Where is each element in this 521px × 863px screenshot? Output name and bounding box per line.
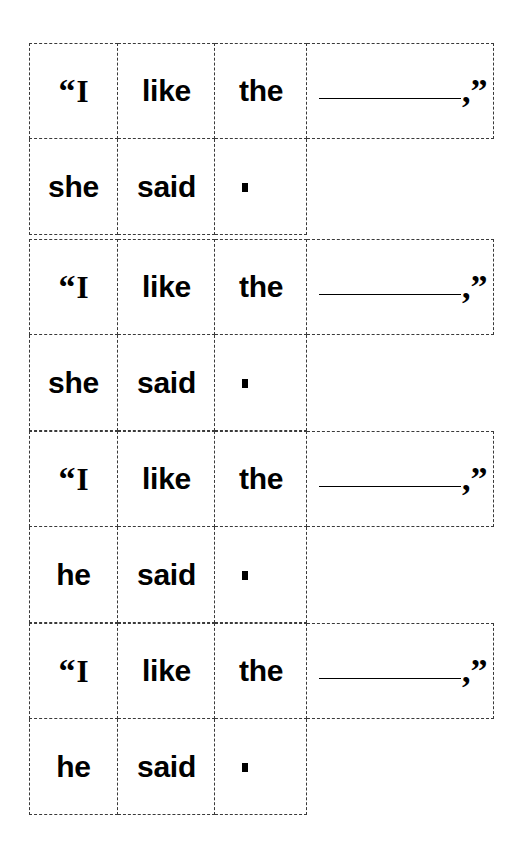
word-cell-said[interactable]: said bbox=[118, 139, 215, 235]
cell-border-right bbox=[306, 527, 307, 623]
word-cell-said[interactable]: said bbox=[118, 527, 215, 623]
cell-border-right bbox=[306, 719, 307, 815]
cell-border-left bbox=[29, 719, 30, 815]
cell-border-top bbox=[118, 623, 215, 624]
cell-border-right bbox=[306, 335, 307, 431]
cell-border-right bbox=[306, 139, 307, 235]
blank-answer-inner: ,” bbox=[319, 274, 494, 299]
word-text-like: like bbox=[142, 464, 191, 494]
cell-border-right bbox=[493, 623, 494, 719]
cell-border-top bbox=[307, 623, 494, 624]
word-text-said: said bbox=[137, 560, 196, 590]
blank-answer-cell[interactable]: ,” bbox=[307, 43, 494, 139]
cell-border-bottom bbox=[307, 526, 494, 527]
cell-border-left bbox=[29, 139, 30, 235]
cell-border-right bbox=[493, 431, 494, 527]
write-on-line[interactable] bbox=[319, 98, 461, 99]
word-text-the: the bbox=[239, 272, 283, 302]
comma-close-quote-text: ,” bbox=[462, 274, 488, 299]
word-cell-period[interactable] bbox=[215, 335, 307, 431]
period-mark-icon bbox=[242, 571, 248, 580]
capital-i-letter: I bbox=[76, 76, 88, 107]
cell-border-top bbox=[307, 239, 494, 240]
word-cell-like[interactable]: like bbox=[118, 431, 215, 527]
word-cell-the[interactable]: the bbox=[215, 623, 307, 719]
word-cell-like[interactable]: like bbox=[118, 43, 215, 139]
cell-border-bottom bbox=[307, 334, 494, 335]
blank-answer-inner: ,” bbox=[319, 466, 494, 491]
word-cell-the[interactable]: the bbox=[215, 239, 307, 335]
comma-close-quote-text: ,” bbox=[462, 78, 488, 103]
word-text-said: said bbox=[137, 172, 196, 202]
word-text-said: said bbox=[137, 368, 196, 398]
cell-border-top bbox=[307, 431, 494, 432]
word-cell-pronoun[interactable]: she bbox=[29, 335, 118, 431]
word-cell-said[interactable]: said bbox=[118, 335, 215, 431]
cell-border-left bbox=[29, 239, 30, 335]
word-cell-said[interactable]: said bbox=[118, 719, 215, 815]
comma-close-quote-text: ,” bbox=[462, 658, 488, 683]
cell-border-left bbox=[29, 43, 30, 139]
open-quote-icon: “ bbox=[58, 270, 75, 304]
word-cell-period[interactable] bbox=[215, 527, 307, 623]
write-on-line[interactable] bbox=[319, 486, 461, 487]
word-text-like: like bbox=[142, 656, 191, 686]
cell-border-bottom bbox=[307, 138, 494, 139]
word-cell-the[interactable]: the bbox=[215, 431, 307, 527]
open-quote-i-text: “I bbox=[58, 462, 88, 496]
word-text-said: said bbox=[137, 752, 196, 782]
blank-answer-cell[interactable]: ,” bbox=[307, 431, 494, 527]
cell-border-top bbox=[307, 43, 494, 44]
cell-border-left bbox=[29, 623, 30, 719]
word-cell-open-quote-i[interactable]: “I bbox=[29, 431, 118, 527]
cell-border-top bbox=[29, 43, 118, 44]
word-cell-pronoun[interactable]: she bbox=[29, 139, 118, 235]
cell-border-bottom bbox=[118, 234, 215, 235]
word-text-pronoun: he bbox=[56, 752, 90, 782]
cell-border-left bbox=[29, 527, 30, 623]
cell-border-top bbox=[215, 623, 307, 624]
word-cell-pronoun[interactable]: he bbox=[29, 527, 118, 623]
cell-border-top bbox=[29, 239, 118, 240]
open-quote-i-text: “I bbox=[58, 74, 88, 108]
cell-border-right bbox=[493, 239, 494, 335]
cell-border-right bbox=[493, 43, 494, 139]
period-mark-icon bbox=[242, 183, 248, 192]
cell-border-bottom bbox=[118, 814, 215, 815]
word-cell-like[interactable]: like bbox=[118, 623, 215, 719]
open-quote-i-text: “I bbox=[58, 654, 88, 688]
word-cell-open-quote-i[interactable]: “I bbox=[29, 239, 118, 335]
blank-answer-cell[interactable]: ,” bbox=[307, 239, 494, 335]
word-cell-like[interactable]: like bbox=[118, 239, 215, 335]
cell-border-top bbox=[215, 431, 307, 432]
cell-border-bottom bbox=[307, 718, 494, 719]
word-cell-open-quote-i[interactable]: “I bbox=[29, 43, 118, 139]
write-on-line[interactable] bbox=[319, 294, 461, 295]
word-text-like: like bbox=[142, 272, 191, 302]
cell-border-bottom bbox=[29, 234, 118, 235]
word-cell-open-quote-i[interactable]: “I bbox=[29, 623, 118, 719]
open-quote-i-text: “I bbox=[58, 270, 88, 304]
word-cell-pronoun[interactable]: he bbox=[29, 719, 118, 815]
cell-border-top bbox=[118, 239, 215, 240]
blank-answer-cell[interactable]: ,” bbox=[307, 623, 494, 719]
comma-close-quote-text: ,” bbox=[462, 466, 488, 491]
cell-border-top bbox=[29, 431, 118, 432]
cell-border-top bbox=[215, 43, 307, 44]
word-text-pronoun: she bbox=[48, 172, 99, 202]
worksheet-canvas: “I like the ,” sh bbox=[0, 0, 521, 863]
word-text-the: the bbox=[239, 464, 283, 494]
write-on-line[interactable] bbox=[319, 678, 461, 679]
word-text-pronoun: he bbox=[56, 560, 90, 590]
open-quote-icon: “ bbox=[58, 654, 75, 688]
capital-i-letter: I bbox=[76, 464, 88, 495]
word-cell-period[interactable] bbox=[215, 719, 307, 815]
word-cell-the[interactable]: the bbox=[215, 43, 307, 139]
word-text-the: the bbox=[239, 76, 283, 106]
word-cell-period[interactable] bbox=[215, 139, 307, 235]
period-mark-icon bbox=[242, 763, 248, 772]
word-text-pronoun: she bbox=[48, 368, 99, 398]
period-mark-icon bbox=[242, 379, 248, 388]
cell-border-bottom bbox=[215, 234, 307, 235]
word-text-the: the bbox=[239, 656, 283, 686]
